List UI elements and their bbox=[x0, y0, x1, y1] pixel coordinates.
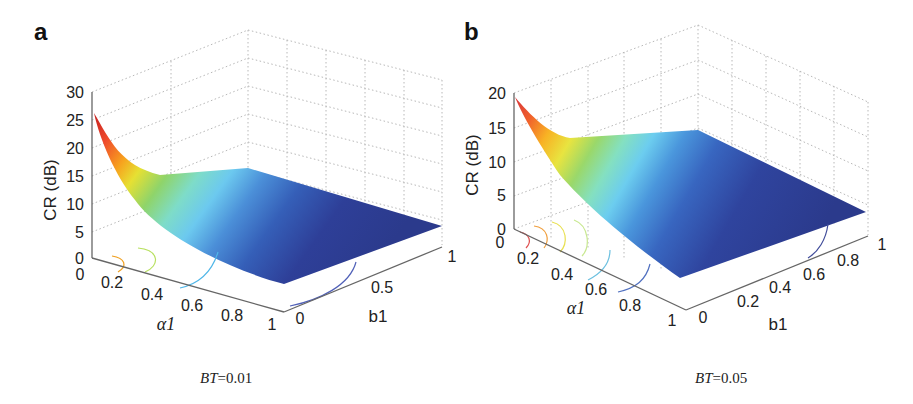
svg-text:0: 0 bbox=[76, 266, 85, 283]
z-ticks-b: 20 15 10 5 0 bbox=[488, 85, 506, 238]
svg-text:10: 10 bbox=[488, 154, 506, 171]
surface-plot-a: 30 25 20 15 10 5 0 CR (dB) 0 0.2 0.4 0.6… bbox=[0, 0, 460, 350]
caption-b: BT=0.05 bbox=[695, 370, 747, 387]
x-axis-label-a: α1 bbox=[157, 314, 175, 334]
svg-text:0.6: 0.6 bbox=[803, 266, 825, 283]
svg-text:20: 20 bbox=[488, 85, 506, 102]
svg-text:0.6: 0.6 bbox=[181, 297, 203, 314]
svg-text:1: 1 bbox=[268, 316, 277, 333]
svg-text:0.4: 0.4 bbox=[141, 286, 163, 303]
svg-text:0: 0 bbox=[75, 250, 84, 267]
x-ticks-a: 0 0.2 0.4 0.6 0.8 1 bbox=[76, 266, 277, 333]
svg-text:0.4: 0.4 bbox=[769, 279, 791, 296]
surface-plot-b: 20 15 10 5 0 CR (dB) 0 0.2 0.4 0.6 0.8 1… bbox=[450, 0, 913, 350]
svg-text:0.2: 0.2 bbox=[737, 293, 759, 310]
y-axis-label-a: b1 bbox=[369, 307, 388, 326]
panel-a: a bbox=[0, 0, 460, 404]
surface-a bbox=[94, 113, 442, 284]
svg-text:0.8: 0.8 bbox=[837, 252, 859, 269]
svg-text:25: 25 bbox=[66, 112, 84, 129]
svg-text:0.2: 0.2 bbox=[517, 250, 539, 267]
svg-text:0: 0 bbox=[296, 310, 305, 327]
svg-text:10: 10 bbox=[66, 196, 84, 213]
surface-b bbox=[515, 97, 866, 278]
svg-text:0.2: 0.2 bbox=[101, 274, 123, 291]
svg-text:0: 0 bbox=[699, 309, 708, 326]
x-axis-label-b: α1 bbox=[567, 298, 585, 318]
svg-text:0.5: 0.5 bbox=[371, 279, 393, 296]
caption-a: BT=0.01 bbox=[200, 370, 252, 387]
svg-text:0.4: 0.4 bbox=[551, 266, 573, 283]
svg-text:15: 15 bbox=[66, 168, 84, 185]
svg-text:30: 30 bbox=[66, 84, 84, 101]
z-ticks-a: 30 25 20 15 10 5 0 bbox=[66, 84, 84, 267]
svg-text:5: 5 bbox=[497, 187, 506, 204]
svg-text:15: 15 bbox=[488, 120, 506, 137]
svg-text:20: 20 bbox=[66, 140, 84, 157]
svg-text:0.8: 0.8 bbox=[221, 307, 243, 324]
svg-text:5: 5 bbox=[75, 224, 84, 241]
svg-text:0.6: 0.6 bbox=[585, 281, 607, 298]
svg-text:1: 1 bbox=[668, 312, 677, 329]
svg-text:0.8: 0.8 bbox=[619, 297, 641, 314]
svg-text:0: 0 bbox=[496, 234, 505, 251]
z-axis-label-b: CR (dB) bbox=[463, 134, 482, 195]
panel-b: b bbox=[450, 0, 913, 404]
svg-text:1: 1 bbox=[878, 236, 887, 253]
z-axis-label-a: CR (dB) bbox=[41, 159, 60, 220]
y-axis-label-b: b1 bbox=[769, 315, 788, 334]
